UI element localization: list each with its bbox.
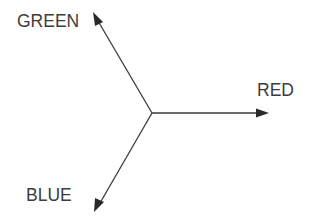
- origin-point: [93, 12, 269, 212]
- blue-arrow-head: [94, 198, 104, 212]
- green-arrow-head: [93, 12, 103, 26]
- blue-axis-line: [100, 113, 152, 203]
- blue-label: BLUE: [26, 185, 72, 205]
- green-label: GREEN: [17, 11, 79, 31]
- color-axes-diagram: GREEN RED BLUE: [0, 0, 312, 221]
- red-label: RED: [257, 80, 294, 100]
- red-arrow-head: [256, 109, 269, 118]
- green-axis-line: [98, 21, 152, 113]
